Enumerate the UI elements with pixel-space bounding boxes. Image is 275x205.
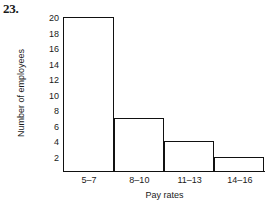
plot-area: 2468101214161820 xyxy=(64,17,265,172)
bar xyxy=(114,118,164,172)
y-axis-tick-label: 12 xyxy=(49,75,59,85)
y-axis-tick-label: 2 xyxy=(54,153,59,163)
bar xyxy=(63,17,113,172)
bar xyxy=(214,157,264,173)
y-axis-tick-label: 10 xyxy=(49,91,59,101)
x-axis-tick-label: 8–10 xyxy=(114,175,164,185)
x-axis-tick-label: 11–13 xyxy=(165,175,215,185)
bar-cell xyxy=(215,17,265,172)
histogram-figure: Number of employees 2468101214161820 5–7… xyxy=(0,0,275,205)
y-axis-tick-label: 16 xyxy=(49,44,59,54)
x-axis-tick-label: 5–7 xyxy=(64,175,114,185)
x-axis-title: Pay rates xyxy=(64,190,265,200)
y-axis-tick-label: 4 xyxy=(54,137,59,147)
bar-cell xyxy=(165,17,215,172)
x-axis-tick-label: 14–16 xyxy=(215,175,265,185)
y-axis-tick-label: 20 xyxy=(49,13,59,23)
y-axis-tick-label: 6 xyxy=(54,122,59,132)
y-axis-title: Number of employees xyxy=(16,28,26,158)
bar-cell xyxy=(64,17,114,172)
y-axis-tick-label: 14 xyxy=(49,60,59,70)
bar-series xyxy=(64,17,265,172)
y-axis-tick-label: 8 xyxy=(54,106,59,116)
bar-cell xyxy=(114,17,164,172)
y-axis-tick-label: 18 xyxy=(49,29,59,39)
x-axis-tick-labels: 5–78–1011–1314–16 xyxy=(64,175,265,185)
bar xyxy=(164,141,214,172)
